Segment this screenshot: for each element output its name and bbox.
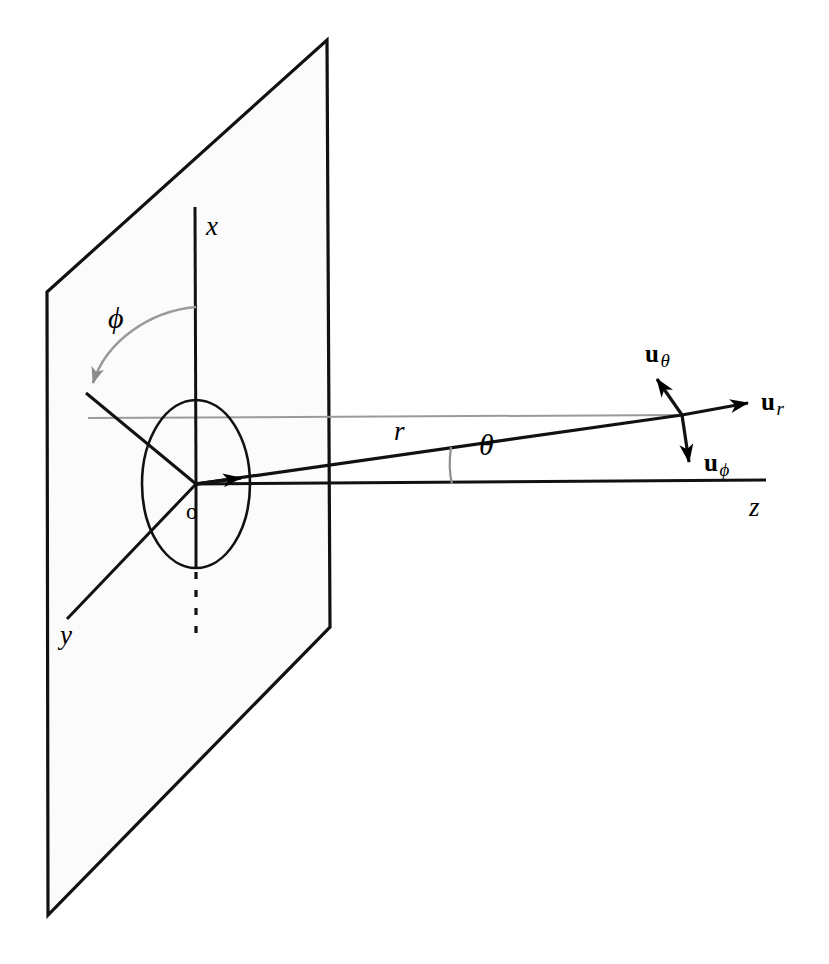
unit-vector-utheta-label: uθ (645, 341, 670, 370)
origin-label: o (186, 500, 198, 523)
phi-angle-label: ϕ (108, 303, 124, 333)
radius-label: r (394, 418, 405, 445)
unit-vector-utheta (657, 379, 682, 415)
unit-vector-uphi-label: uϕ (704, 450, 729, 479)
unit-vector-ur (682, 403, 748, 415)
unit-vector-utheta-subscript: θ (660, 350, 669, 371)
theta-angle-label: θ (479, 430, 494, 460)
x-axis-label: x (206, 213, 218, 240)
theta-angle-arc (450, 447, 452, 484)
figure-root: x y z o r θ ϕ ur uθ uϕ (0, 0, 829, 964)
unit-vector-utheta-base: u (645, 340, 659, 367)
unit-vector-ur-base: u (761, 388, 775, 415)
unit-vector-uphi-subscript: ϕ (719, 459, 729, 480)
x-axis-line (195, 207, 196, 484)
unit-vector-uphi-base: u (704, 449, 718, 476)
unit-vector-uphi (682, 415, 689, 462)
y-axis-label: y (60, 622, 72, 649)
spherical-coordinate-diagram (0, 0, 829, 964)
unit-vector-ur-label: ur (761, 389, 784, 418)
unit-vector-ur-subscript: r (776, 398, 783, 419)
z-axis-label: z (749, 494, 760, 521)
